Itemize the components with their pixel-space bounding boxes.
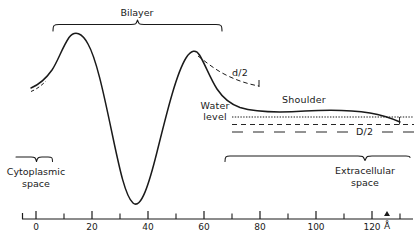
x-tick-label-80: 80 [254,222,265,232]
extracellular-brace [225,156,410,162]
water-label-line1: Water [200,100,229,111]
extracellular-label-line2: space [351,177,379,188]
x-tick-label-60: 60 [198,222,209,232]
bilayer-label: Bilayer [121,7,154,19]
cytoplasmic-space-label: Cytoplasmic space [7,166,65,189]
water-level-label: Water level [197,100,233,122]
angstrom-marker [384,211,390,216]
bilayer-brace [53,20,222,31]
x-axis [22,211,413,219]
cytoplasmic-label-line1: Cytoplasmic [7,166,65,177]
figure-canvas [0,0,418,248]
water-level-reference-lines [232,117,414,132]
water-label-line2: level [203,111,227,122]
d-half-label: d/2 [232,67,248,78]
x-tick-label-100: 100 [307,222,324,232]
extracellular-label-line1: Extracellular [335,165,395,176]
extracellular-space-label: Extracellular space [335,165,395,188]
shoulder-label: Shoulder [282,94,326,105]
x-tick-label-40: 40 [142,222,153,232]
cytoplasmic-brace [16,157,53,162]
x-tick-label-20: 20 [86,222,97,232]
x-tick-label-0: 0 [33,222,39,232]
cytoplasmic-label-line2: space [22,178,50,189]
x-tick-label-120: 120 [363,222,380,232]
electron-density-profile-figure: Bilayer Cytoplasmic space Extracellular … [0,0,418,248]
D-half-label: D/2 [356,126,373,137]
angstrom-unit-label: Å [384,221,390,231]
